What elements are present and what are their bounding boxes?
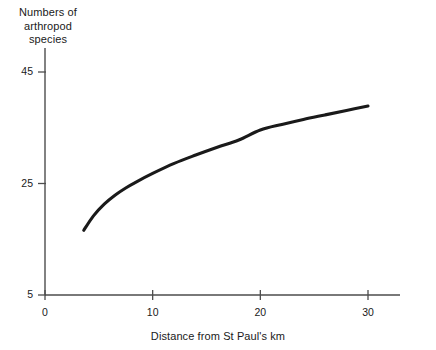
data-series-line <box>84 106 368 230</box>
y-tick-label: 5 <box>3 288 33 300</box>
plot-area <box>0 0 436 350</box>
chart-figure: Numbers of arthropod species 52545 01020… <box>0 0 436 350</box>
axis-lines <box>45 48 400 295</box>
x-tick-label: 0 <box>33 306 57 318</box>
x-tick-label: 10 <box>141 306 165 318</box>
y-tick-label: 45 <box>3 65 33 77</box>
x-tick-label: 20 <box>248 306 272 318</box>
x-tick-label: 30 <box>356 306 380 318</box>
x-axis-title: Distance from St Paul's km <box>0 330 436 342</box>
axis-ticks <box>38 72 368 300</box>
y-tick-label: 25 <box>3 177 33 189</box>
